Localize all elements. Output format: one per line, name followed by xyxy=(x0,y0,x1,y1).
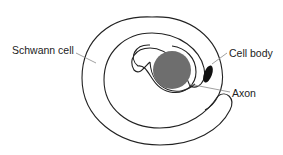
diagram-drawing xyxy=(0,0,283,155)
axon-leader xyxy=(189,84,230,92)
label-schwann-cell: Schwann cell xyxy=(12,45,74,56)
label-cell-body: Cell body xyxy=(229,48,273,59)
schwann-cell-diagram: Schwann cell Cell body Axon xyxy=(0,0,283,155)
label-axon: Axon xyxy=(232,88,256,99)
cell-body-leader xyxy=(212,53,227,64)
axon-circle xyxy=(153,51,191,89)
